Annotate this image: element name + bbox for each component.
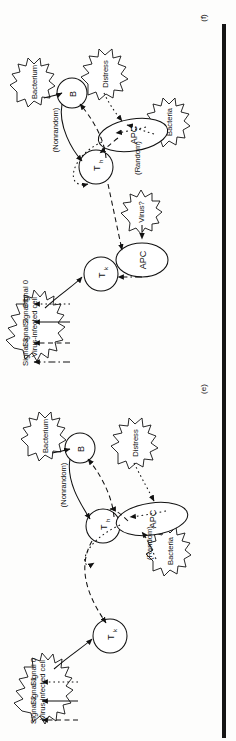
helper-t-cell: T h	[79, 150, 113, 184]
helper-t-cell: T h	[86, 509, 120, 543]
virus-infected-cell-label: Virus-infected cell	[30, 297, 39, 357]
killer-t-cell-sub: k	[112, 628, 118, 632]
panel-f: Virus-infected cell Virus? Bacterium Bac…	[0, 0, 216, 370]
virus-infected-cell-label: Virus-infected cell	[38, 660, 47, 720]
helper-t-cell-label: T	[92, 165, 102, 171]
panel-tag-e: (e)	[199, 384, 208, 394]
figure-page: Virus-infected cell Virus? Bacterium Bac…	[0, 0, 236, 741]
edge-th-to-tk	[85, 541, 106, 623]
legend-label-signal-3: Signal 3	[21, 338, 30, 366]
killer-t-cell: T k	[93, 619, 127, 653]
bacterium-label: Bacterium	[30, 65, 39, 99]
edge-th-to-b	[88, 459, 114, 517]
bacterium-label: Bacterium	[41, 419, 50, 453]
killer-t-cell-sub: k	[103, 266, 109, 270]
antigen-presenting-cell-upper: APC	[116, 243, 168, 277]
edge-label-random: (Random)	[133, 141, 142, 175]
helper-t-cell-sub: h	[98, 160, 104, 163]
edge-b-to-th-nonrandom	[61, 104, 82, 161]
killer-t-cell-label: T	[97, 272, 107, 278]
edge-virus-cell-to-tk	[54, 639, 92, 669]
distress-label: Distress	[131, 429, 140, 457]
edge-label-nonrandom: (Nonrandom)	[51, 107, 60, 152]
bacterium-burst: Bacterium	[10, 58, 55, 107]
bacterium-burst: Bacterium	[21, 412, 66, 461]
killer-t-cell: T k	[84, 257, 118, 291]
b-cell: B	[65, 433, 95, 463]
panel-e: Virus-infected cell Bacterium Bacteria D…	[0, 371, 216, 741]
edge-label-nonrandom: (Nonrandom)	[59, 462, 68, 507]
b-cell-label: B	[68, 91, 78, 97]
edge-label-random: (Random)	[145, 526, 154, 560]
apc-upper-label: APC	[138, 250, 148, 269]
edge-b-to-th-nonrandom	[69, 459, 90, 519]
distress-burst: Distress	[111, 418, 158, 469]
edge-distress-to-apc	[134, 463, 154, 501]
virus-infected-cell-burst: Virus-infected cell	[6, 290, 65, 361]
panel-tag-f: (f)	[199, 14, 208, 22]
edge-virus-cell-to-tk	[45, 277, 82, 308]
b-cell-label: B	[76, 446, 86, 452]
distress-label: Distress	[101, 60, 110, 88]
bacteria-label: Bacteria	[166, 536, 175, 565]
edge-th-to-apc-upper	[108, 184, 122, 250]
virus-question-label: Virus?	[137, 201, 146, 222]
virus-infected-cell-burst: Virus-infected cell	[14, 653, 73, 724]
page-edge-bar	[222, 24, 226, 738]
legend-label-signal-2: Signal 2	[29, 696, 38, 724]
helper-t-cell-label: T	[99, 524, 109, 530]
helper-t-cell-sub: h	[105, 519, 111, 522]
distress-burst: Distress	[81, 49, 128, 100]
killer-t-cell-label: T	[106, 634, 116, 640]
